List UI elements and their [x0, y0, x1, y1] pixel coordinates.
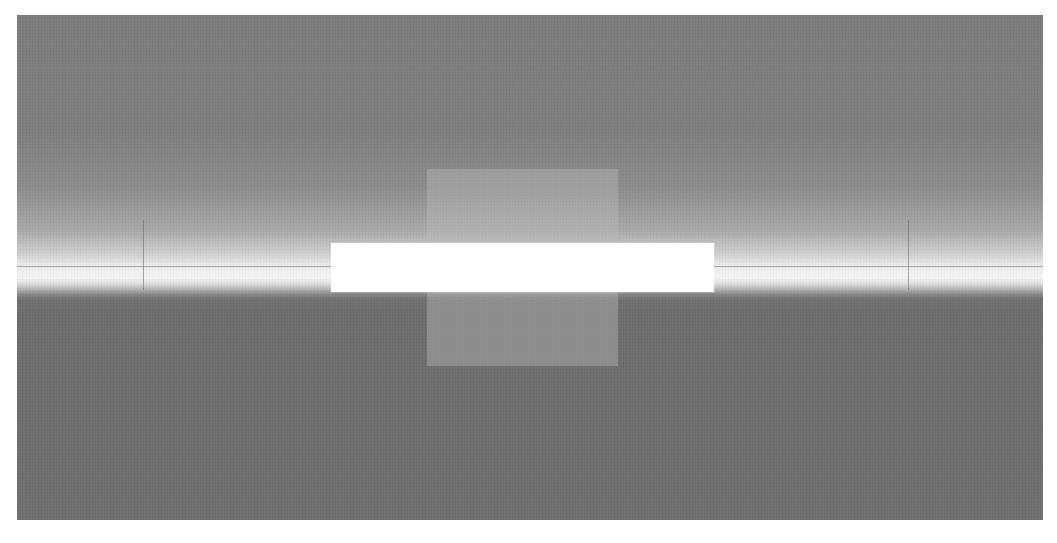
vertical-marker-right: [908, 220, 909, 290]
figure-canvas: [0, 0, 1057, 543]
white-horizontal-bar: [331, 243, 714, 292]
vertical-marker-left: [143, 220, 144, 290]
stimulus-panel: [17, 15, 1043, 520]
